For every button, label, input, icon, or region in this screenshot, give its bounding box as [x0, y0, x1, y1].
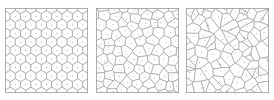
- seed-point: [206, 25, 207, 26]
- seed-point: [161, 84, 162, 85]
- seed-point: [151, 39, 152, 40]
- seed-point: [67, 84, 68, 85]
- seed-point: [194, 29, 195, 30]
- seed-point: [119, 68, 120, 69]
- seed-point: [252, 83, 253, 84]
- seed-point: [100, 90, 101, 91]
- seed-point: [133, 59, 134, 60]
- seed-point: [127, 82, 128, 83]
- seed-point: [246, 41, 247, 42]
- seed-point: [56, 67, 57, 68]
- seed-point: [41, 41, 42, 42]
- seed-point: [106, 34, 107, 35]
- voronoi-svg-right: [186, 8, 269, 93]
- seed-point: [36, 33, 37, 34]
- seed-point: [134, 18, 135, 19]
- seed-point: [25, 33, 26, 34]
- seed-point: [244, 36, 245, 37]
- seed-point: [175, 85, 176, 86]
- seed-point: [10, 41, 11, 42]
- seed-point: [99, 77, 100, 78]
- seed-point: [82, 41, 83, 42]
- voronoi-figure: [0, 0, 274, 100]
- seed-point: [56, 50, 57, 51]
- seed-point: [190, 64, 191, 65]
- seed-point: [154, 77, 155, 78]
- seed-point: [62, 58, 63, 59]
- seed-point: [170, 17, 171, 18]
- seed-point: [235, 45, 236, 46]
- seed-point: [227, 91, 228, 92]
- seed-point: [46, 33, 47, 34]
- seed-point: [20, 41, 21, 42]
- seed-point: [72, 58, 73, 59]
- seed-point: [175, 40, 176, 41]
- seed-point: [103, 14, 104, 15]
- seed-point: [77, 50, 78, 51]
- seed-point: [260, 26, 261, 27]
- seed-point: [147, 31, 148, 32]
- seed-point: [243, 15, 244, 16]
- seed-point: [82, 24, 83, 25]
- seed-point: [77, 84, 78, 85]
- seed-point: [115, 16, 116, 17]
- panel-random-poisson-voronoi: [186, 8, 269, 93]
- seed-point: [41, 24, 42, 25]
- seed-point: [67, 50, 68, 51]
- seed-point: [243, 37, 244, 38]
- seed-point: [46, 67, 47, 68]
- seed-point: [25, 50, 26, 51]
- seed-point: [170, 50, 171, 51]
- seed-point: [201, 73, 202, 74]
- seed-point: [112, 85, 113, 86]
- seed-point: [124, 50, 125, 51]
- seed-point: [154, 59, 155, 60]
- seed-point: [10, 58, 11, 59]
- seed-point: [228, 36, 229, 37]
- seed-point: [98, 67, 99, 68]
- seed-point: [247, 25, 248, 26]
- seed-point: [119, 40, 120, 41]
- seed-point: [132, 90, 133, 91]
- seed-point: [263, 18, 264, 19]
- seed-point: [103, 60, 104, 61]
- seed-point: [199, 18, 200, 19]
- seed-point: [108, 42, 109, 43]
- seed-point: [148, 47, 149, 48]
- seed-point: [62, 75, 63, 76]
- panel-regular-lattice-voronoi: [5, 8, 88, 93]
- voronoi-cell: [112, 64, 125, 73]
- seed-point: [219, 43, 220, 44]
- seed-point: [51, 24, 52, 25]
- seed-point: [77, 16, 78, 17]
- seed-point: [134, 9, 135, 10]
- seed-point: [117, 51, 118, 52]
- seed-point: [51, 41, 52, 42]
- seed-point: [120, 89, 121, 90]
- seed-point: [46, 84, 47, 85]
- seed-point: [107, 81, 108, 82]
- seed-point: [231, 27, 232, 28]
- seed-point: [208, 24, 209, 25]
- seed-point: [72, 24, 73, 25]
- seed-point: [204, 87, 205, 88]
- seed-point: [46, 50, 47, 51]
- seed-point: [31, 41, 32, 42]
- seed-point: [211, 43, 212, 44]
- seed-point: [229, 78, 230, 79]
- seed-point: [99, 24, 100, 25]
- seed-point: [231, 29, 232, 30]
- seed-point: [116, 35, 117, 36]
- seed-point: [204, 11, 205, 12]
- seed-point: [165, 41, 166, 42]
- seed-point: [147, 14, 148, 15]
- seed-point: [222, 38, 223, 39]
- seed-point: [251, 54, 252, 55]
- seed-point: [25, 67, 26, 68]
- seed-point: [25, 84, 26, 85]
- seed-point: [56, 33, 57, 34]
- panel-partially-relaxed-voronoi: [96, 8, 179, 93]
- seed-point: [46, 16, 47, 17]
- seed-point: [31, 24, 32, 25]
- seed-point: [156, 16, 157, 17]
